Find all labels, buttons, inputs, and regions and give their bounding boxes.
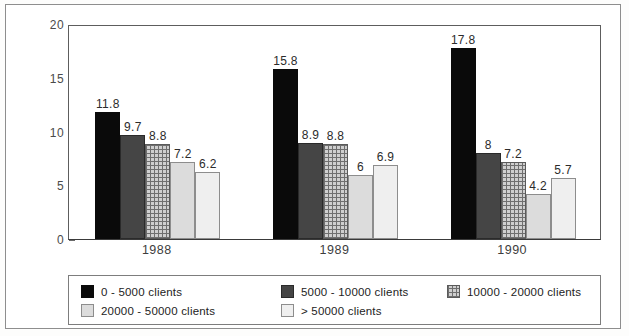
bar-group-1988: 11.89.78.87.26.2 bbox=[95, 26, 220, 239]
legend-item[interactable]: 5000 - 10000 clients bbox=[281, 285, 447, 298]
legend-swatch bbox=[281, 304, 294, 317]
bar-value-label: 7.2 bbox=[504, 147, 522, 161]
bar[interactable]: 5.7 bbox=[551, 178, 576, 239]
bar[interactable]: 6.9 bbox=[373, 165, 398, 239]
legend-grid: 0 - 5000 clients5000 - 10000 clients1000… bbox=[81, 282, 593, 320]
bar[interactable]: 8.9 bbox=[298, 143, 323, 239]
bar[interactable]: 6 bbox=[348, 175, 373, 240]
x-axis-tick-label: 1988 bbox=[142, 243, 172, 257]
bar[interactable]: 8.8 bbox=[323, 144, 348, 239]
bar-value-label: 4.2 bbox=[529, 179, 547, 193]
bar[interactable]: 7.2 bbox=[170, 162, 195, 239]
bar[interactable]: 4.2 bbox=[526, 194, 551, 239]
legend-swatch bbox=[81, 285, 94, 298]
legend-item[interactable]: 10000 - 20000 clients bbox=[447, 285, 607, 298]
bar[interactable]: 17.8 bbox=[451, 48, 476, 239]
bar-value-label: 6.9 bbox=[377, 150, 395, 164]
legend-item[interactable]: > 50000 clients bbox=[281, 304, 447, 317]
bar-value-label: 8.8 bbox=[149, 129, 167, 143]
bar-value-label: 6 bbox=[357, 160, 364, 174]
legend-label: 0 - 5000 clients bbox=[101, 286, 182, 298]
y-axis-tick-label: 10 bbox=[24, 126, 64, 140]
bar-value-label: 8.9 bbox=[302, 128, 320, 142]
x-axis-tick-label: 1989 bbox=[320, 243, 350, 257]
legend-label: 10000 - 20000 clients bbox=[467, 286, 581, 298]
y-axis-labels: 05101520 bbox=[20, 25, 64, 240]
x-axis-labels: 198819891990 bbox=[68, 243, 601, 265]
bar[interactable]: 8.8 bbox=[145, 144, 170, 239]
y-axis-tick-label: 0 bbox=[24, 233, 64, 247]
bar-value-label: 8.8 bbox=[327, 129, 345, 143]
bar-value-label: 15.8 bbox=[273, 54, 298, 68]
legend-swatch bbox=[81, 304, 94, 317]
bar-value-label: 9.7 bbox=[124, 120, 142, 134]
figure-frame: 05101520 11.89.78.87.26.215.88.98.866.91… bbox=[5, 4, 621, 329]
legend-item[interactable]: 20000 - 50000 clients bbox=[81, 304, 281, 317]
bar-value-label: 8 bbox=[485, 138, 492, 152]
x-axis-tick-label: 1990 bbox=[497, 243, 527, 257]
bar-value-label: 11.8 bbox=[96, 97, 120, 111]
legend-label: > 50000 clients bbox=[301, 305, 382, 317]
chart-page: 05101520 11.89.78.87.26.215.88.98.866.91… bbox=[0, 0, 629, 336]
bar[interactable]: 11.8 bbox=[95, 112, 120, 239]
legend-label: 5000 - 10000 clients bbox=[301, 286, 409, 298]
legend-swatch bbox=[447, 285, 460, 298]
y-axis-major-tick bbox=[69, 240, 75, 241]
plot-area: 11.89.78.87.26.215.88.98.866.917.887.24.… bbox=[68, 25, 601, 240]
bar-value-label: 17.8 bbox=[451, 33, 476, 47]
bar[interactable]: 15.8 bbox=[273, 69, 298, 239]
legend-swatch bbox=[281, 285, 294, 298]
bar[interactable]: 6.2 bbox=[195, 172, 220, 239]
bar-group-1989: 15.88.98.866.9 bbox=[273, 26, 398, 239]
bar-value-label: 6.2 bbox=[199, 157, 217, 171]
bar-value-label: 7.2 bbox=[174, 147, 192, 161]
bar[interactable]: 8 bbox=[476, 153, 501, 239]
y-axis-tick-label: 20 bbox=[24, 18, 64, 32]
legend-item[interactable]: 0 - 5000 clients bbox=[81, 285, 281, 298]
legend: 0 - 5000 clients5000 - 10000 clients1000… bbox=[68, 275, 601, 325]
legend-label: 20000 - 50000 clients bbox=[101, 305, 215, 317]
y-axis-tick-label: 5 bbox=[24, 179, 64, 193]
bar-value-label: 5.7 bbox=[554, 163, 572, 177]
bar[interactable]: 7.2 bbox=[501, 162, 526, 239]
y-axis-tick-label: 15 bbox=[24, 72, 64, 86]
bar-group-1990: 17.887.24.25.7 bbox=[451, 26, 576, 239]
bar[interactable]: 9.7 bbox=[120, 135, 145, 239]
